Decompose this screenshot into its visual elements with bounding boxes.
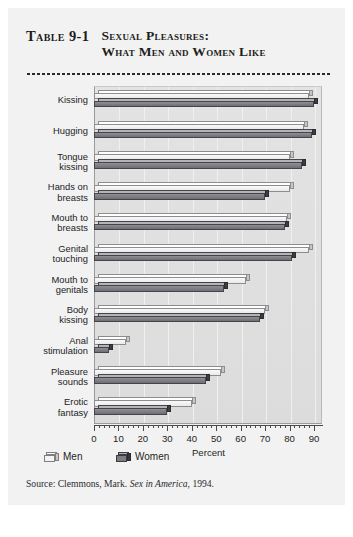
x-tick-minor: [270, 425, 271, 428]
x-tick-minor: [109, 425, 110, 428]
source-note: Source: Clemmons, Mark. Sex in America, …: [26, 478, 331, 489]
x-tick-major: [314, 425, 315, 431]
x-tick-minor: [280, 425, 281, 428]
y-axis-label-line: genitals: [26, 285, 88, 295]
x-tick-minor: [153, 425, 154, 428]
bar-women-body-kissing: [94, 316, 260, 323]
x-tick-minor: [255, 425, 256, 428]
source-prefix: Source: Clemmons, Mark.: [26, 478, 127, 489]
x-tick-label: 20: [138, 433, 149, 444]
x-tick-minor: [231, 425, 232, 428]
x-tick-major: [143, 425, 144, 431]
x-tick-minor: [206, 425, 207, 428]
x-tick-minor: [123, 425, 124, 428]
x-tick-minor: [177, 425, 178, 428]
y-axis-label: Pleasuresounds: [26, 367, 88, 387]
bar-women-pleasure-sounds: [94, 377, 206, 384]
legend-label-men: Men: [63, 451, 82, 462]
x-tick-minor: [172, 425, 173, 428]
legend-label-women: Women: [135, 451, 169, 462]
legend-swatch-women-icon: [116, 452, 131, 462]
x-tick-minor: [246, 425, 247, 428]
x-tick-minor: [309, 425, 310, 428]
bar-women-mouth-to-breasts: [94, 224, 285, 231]
x-tick-minor: [294, 425, 295, 428]
x-tick-minor: [221, 425, 222, 428]
y-axis-label-line: breasts: [26, 223, 88, 233]
table-title-line2: What Men and Women Like: [101, 44, 265, 60]
x-tick-minor: [285, 425, 286, 428]
x-tick-label: 60: [235, 433, 246, 444]
x-tick-minor: [197, 425, 198, 428]
x-tick-major: [216, 425, 217, 431]
y-axis-label: Kissing: [26, 95, 88, 105]
y-axis-label-line: Kissing: [26, 95, 88, 105]
y-axis-label: Mouth tobreasts: [26, 213, 88, 233]
figure-panel: Table 9-1 Sexual Pleasures: What Men and…: [8, 8, 345, 505]
y-axis-label-line: kissing: [26, 315, 88, 325]
x-tick-minor: [299, 425, 300, 428]
y-axis-label: Hugging: [26, 126, 88, 136]
x-tick-label: 40: [186, 433, 197, 444]
y-axis-label: Mouth togenitals: [26, 275, 88, 295]
x-tick-major: [241, 425, 242, 431]
legend-item-women: Women: [116, 451, 169, 462]
bar-women-tongue-kissing: [94, 162, 302, 169]
y-axis-label: Analstimulation: [26, 336, 88, 356]
x-axis: [94, 425, 323, 432]
x-tick-minor: [148, 425, 149, 428]
figure-title: Table 9-1 Sexual Pleasures: What Men and…: [26, 28, 331, 60]
y-axis-label: Bodykissing: [26, 305, 88, 325]
x-tick-major: [192, 425, 193, 431]
x-tick-minor: [187, 425, 188, 428]
x-tick-minor: [162, 425, 163, 428]
x-tick-minor: [250, 425, 251, 428]
x-tick-minor: [128, 425, 129, 428]
title-divider: [26, 72, 331, 76]
x-tick-minor: [275, 425, 276, 428]
y-axis-label-line: Hands on: [26, 182, 88, 192]
y-axis-label-line: Hugging: [26, 126, 88, 136]
bar-women-genital-touching: [94, 255, 292, 262]
y-axis-label: Tonguekissing: [26, 152, 88, 172]
x-tick-label: 70: [260, 433, 271, 444]
x-tick-minor: [104, 425, 105, 428]
bar-women-hugging: [94, 132, 312, 139]
x-tick-minor: [138, 425, 139, 428]
table-number: Table 9-1: [26, 28, 89, 45]
x-tick-minor: [99, 425, 100, 428]
y-axis-label: Eroticfantasy: [26, 397, 88, 417]
x-tick-minor: [202, 425, 203, 428]
x-tick-label: 50: [211, 433, 222, 444]
y-axis-label: Hands onbreasts: [26, 182, 88, 202]
x-tick-label: 80: [284, 433, 295, 444]
x-tick-minor: [260, 425, 261, 428]
x-tick-minor: [133, 425, 134, 428]
y-axis-label-line: sounds: [26, 377, 88, 387]
x-tick-major: [265, 425, 266, 431]
bar-women-anal-stimulation: [94, 347, 109, 354]
x-tick-minor: [304, 425, 305, 428]
y-axis-label-line: fantasy: [26, 408, 88, 418]
x-tick-minor: [236, 425, 237, 428]
legend-item-men: Men: [44, 451, 82, 462]
y-axis-label-line: stimulation: [26, 346, 88, 356]
x-tick-minor: [226, 425, 227, 428]
x-tick-label: 90: [309, 433, 320, 444]
x-tick-major: [94, 425, 95, 431]
bar-women-mouth-to-genitals: [94, 285, 224, 292]
x-tick-major: [167, 425, 168, 431]
x-axis-tick-labels: 0102030405060708090: [26, 433, 331, 447]
gridline: [315, 87, 316, 423]
source-suffix: , 1994.: [188, 478, 214, 489]
x-tick-minor: [158, 425, 159, 428]
source-title: Sex in America: [130, 478, 188, 489]
chart-container: KissingHuggingTonguekissingHands onbreas…: [26, 84, 331, 432]
table-title-line1: Sexual Pleasures:: [101, 28, 265, 44]
x-tick-major: [118, 425, 119, 431]
x-tick-label: 0: [91, 433, 96, 444]
y-axis-label: Genitaltouching: [26, 244, 88, 264]
x-tick-label: 30: [162, 433, 173, 444]
x-tick-minor: [211, 425, 212, 428]
bar-women-hands-on-breasts: [94, 193, 265, 200]
